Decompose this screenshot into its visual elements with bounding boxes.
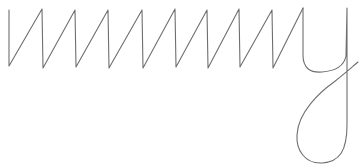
loop-descender-stroke — [297, 8, 358, 163]
zigzag-stroke — [9, 8, 303, 68]
handwriting-stroke — [0, 0, 364, 165]
drawing-canvas — [0, 0, 364, 165]
